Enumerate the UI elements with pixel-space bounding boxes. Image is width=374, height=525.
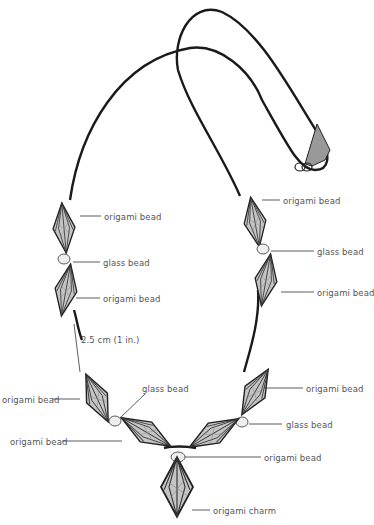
label-spacing: 2.5 cm (1 in.): [81, 335, 139, 345]
label-origami-charm: origami charm: [213, 506, 276, 516]
label-glass-bead: glass bead: [317, 247, 364, 257]
label-origami-bead: origami bead: [103, 294, 160, 304]
label-glass-bead: glass bead: [142, 384, 189, 394]
label-origami-bead: origami bead: [264, 453, 321, 463]
label-glass-bead: glass bead: [286, 420, 333, 430]
label-origami-bead: origami bead: [10, 437, 67, 447]
label-origami-bead: origami bead: [283, 196, 340, 206]
label-origami-bead: origami bead: [306, 384, 363, 394]
label-origami-bead: origami bead: [104, 212, 161, 222]
label-origami-bead: origami bead: [2, 395, 59, 405]
cord: [70, 10, 327, 448]
leader-lines: [52, 200, 314, 510]
label-origami-bead: origami bead: [317, 288, 374, 298]
label-glass-bead: glass bead: [103, 258, 150, 268]
